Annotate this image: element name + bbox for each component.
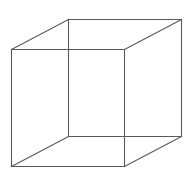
cube-edge-front-top-left-to-back-top-left: [12, 20, 69, 50]
necker-cube-diagram: [0, 0, 191, 169]
cube-edge-front-bottom-left-to-back-bottom-left: [12, 137, 69, 167]
cube-edge-front-top-right-to-back-top-right: [125, 20, 182, 50]
cube-edge-front-bottom-right-to-back-bottom-right: [125, 137, 182, 167]
cube-edges: [12, 20, 182, 167]
